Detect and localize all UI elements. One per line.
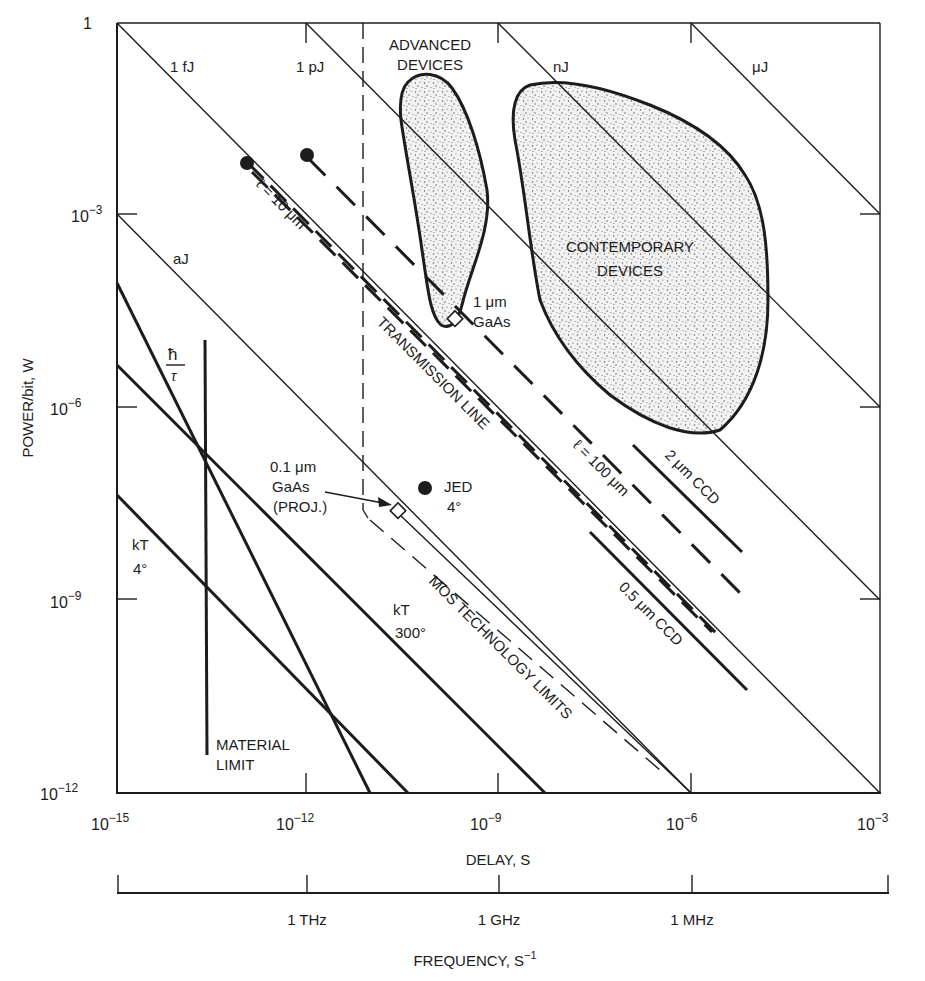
- label-gaas1-1: 1 μm: [473, 293, 507, 310]
- label-jed-1: JED: [444, 478, 473, 495]
- energy-lines: [117, 23, 880, 793]
- l100-start-marker: [300, 148, 314, 162]
- label-mos-limits: MOS TECHNOLOGY LIMITS: [426, 572, 576, 722]
- x-tick-1e-9: 10−9: [470, 811, 502, 833]
- x-tick-1e-3: 10−3: [857, 811, 889, 833]
- label-aj: aJ: [173, 250, 189, 267]
- freq-tick-thz: 1 THz: [287, 911, 327, 928]
- label-pj: 1 pJ: [296, 58, 324, 75]
- label-transmission-line: TRANSMISSION LINE: [374, 313, 493, 432]
- label-kt4-1: kT: [132, 536, 149, 553]
- y-tick-1: 1: [83, 15, 92, 32]
- label-gaas01-1: 0.1 μm: [270, 458, 316, 475]
- label-ccd-05um: 0.5 μm CCD: [616, 578, 687, 649]
- label-kt4-2: 4°: [133, 560, 147, 577]
- y-axis-title: POWER/bit, W: [19, 358, 36, 458]
- power-delay-chart: POWER/bit, W 1 10−3 10−6 10−9 10−12 10−1…: [0, 0, 925, 981]
- label-hbar: ħ: [168, 345, 177, 364]
- label-advanced-1: ADVANCED: [389, 36, 471, 53]
- contemporary-devices-region: [513, 82, 768, 433]
- label-advanced-2: DEVICES: [397, 56, 463, 73]
- y-tick-1e-3: 10−3: [71, 203, 103, 225]
- x-axis-title: DELAY, S: [466, 851, 530, 868]
- label-kt300-1: kT: [393, 601, 410, 618]
- limit-lines: [117, 283, 545, 793]
- y-tick-1e-12: 10−12: [40, 781, 78, 803]
- freq-tick-ghz: 1 GHz: [478, 911, 521, 928]
- label-tau: τ: [171, 368, 177, 384]
- label-fj: 1 fJ: [170, 58, 194, 75]
- label-jed-2: 4°: [447, 498, 461, 515]
- label-kt300-2: 300°: [395, 624, 426, 641]
- material-limit-line: [205, 340, 207, 755]
- label-uj: μJ: [752, 58, 768, 75]
- arrow-line: [325, 492, 383, 503]
- label-ccd-2um: 2 μm CCD: [662, 446, 724, 508]
- label-contemporary-1: CONTEMPORARY: [566, 238, 694, 255]
- energy-line-fj: [117, 23, 880, 793]
- x-tick-1e-15: 10−15: [91, 811, 129, 833]
- x-tick-1e-12: 10−12: [276, 811, 314, 833]
- y-tick-1e-6: 10−6: [50, 396, 82, 418]
- jed-marker: [418, 481, 432, 495]
- advanced-devices-region: [400, 74, 487, 326]
- arrow-head: [378, 497, 392, 507]
- label-l10: ℓ = 10 μm: [253, 175, 310, 232]
- freq-tick-mhz: 1 MHz: [670, 911, 713, 928]
- x-tick-1e-6: 10−6: [666, 811, 698, 833]
- label-nj: nJ: [553, 58, 569, 75]
- frequency-axis: [117, 875, 889, 893]
- label-material-1: MATERIAL: [216, 736, 290, 753]
- label-contemporary-2: DEVICES: [597, 262, 663, 279]
- label-gaas01-3: (PROJ.): [273, 498, 327, 515]
- freq-axis-title: FREQUENCY, S−1: [413, 949, 536, 969]
- y-tick-1e-9: 10−9: [50, 589, 82, 611]
- label-gaas01-2: GaAs: [272, 478, 310, 495]
- ccd-05um-line: [590, 532, 747, 690]
- label-material-2: LIMIT: [216, 756, 254, 773]
- label-gaas1-2: GaAs: [473, 313, 511, 330]
- l10-start-marker: [240, 156, 254, 170]
- gaas-01um-marker: [390, 503, 406, 519]
